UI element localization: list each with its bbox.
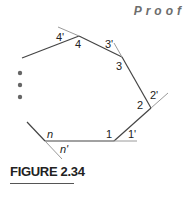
label-1: 1 — [106, 128, 112, 140]
ellipsis-dots — [18, 71, 22, 99]
label-4-prime: 4' — [56, 31, 64, 43]
label-2-prime: 2' — [150, 89, 158, 101]
polygon-sides — [22, 36, 151, 141]
label-3-prime: 3' — [105, 38, 113, 50]
label-n: n — [47, 128, 53, 140]
caption-underline — [10, 183, 74, 184]
label-1-prime: 1' — [128, 128, 136, 140]
figure-caption: FIGURE 2.34 — [10, 164, 85, 179]
label-2: 2 — [137, 99, 143, 111]
label-n-prime: n' — [60, 143, 69, 155]
label-4: 4 — [75, 38, 81, 50]
label-3: 3 — [116, 60, 122, 72]
